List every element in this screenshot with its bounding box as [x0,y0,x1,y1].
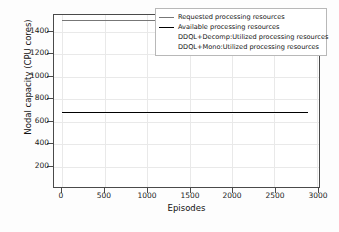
x-axis-title: Episodes [53,203,320,213]
x-tick-label-1000: 1000 [127,191,167,200]
y-tick-label-600: 600 [9,117,49,125]
legend-item-ddql-decomp[interactable]: DDQL+Decomp:Utilized processing resource… [159,32,322,42]
legend-label-ddql-mono: DDQL+Mono:Utilized processing resources [178,43,319,52]
gridline-h-600 [54,122,319,123]
gridline-v-500 [105,15,106,187]
legend-line-icon-available [159,23,174,31]
series-line-3 [62,113,308,114]
legend-item-available[interactable]: Available processing resources [159,22,322,32]
y-tick-label-800: 800 [9,94,49,102]
y-tick-label-1400: 1400 [9,27,49,35]
y-tick-label-1200: 1200 [9,49,49,57]
legend: Requested processing resources Available… [155,8,327,56]
legend-line-icon-ddql-decomp [159,33,174,41]
y-tick-label-400: 400 [9,139,49,147]
legend-label-available: Available processing resources [178,23,280,32]
legend-line-icon-ddql-mono [159,43,174,51]
x-tick-label-500: 500 [84,191,124,200]
legend-line-icon-requested [159,13,174,21]
figure-canvas: Nodal capacity (CPU cores) 1400 1200 100… [0,0,339,232]
y-tick-label-1000: 1000 [9,72,49,80]
x-tick-label-3000: 3000 [298,191,338,200]
x-tick-label-2500: 2500 [255,191,295,200]
gridline-h-400 [54,144,319,145]
x-tick-label-0: 0 [41,191,81,200]
x-tick-label-1500: 1500 [170,191,210,200]
gridline-h-200 [54,167,319,168]
x-tick-label-2000: 2000 [212,191,252,200]
gridline-v-1000 [147,15,148,187]
legend-label-requested: Requested processing resources [178,13,285,22]
gridline-h-800 [54,99,319,100]
legend-item-ddql-mono[interactable]: DDQL+Mono:Utilized processing resources [159,42,322,52]
y-tick-label-200: 200 [9,162,49,170]
legend-item-requested[interactable]: Requested processing resources [159,12,322,22]
gridline-h-1000 [54,77,319,78]
legend-label-ddql-decomp: DDQL+Decomp:Utilized processing resource… [178,33,328,42]
gridline-v-0 [62,15,63,187]
